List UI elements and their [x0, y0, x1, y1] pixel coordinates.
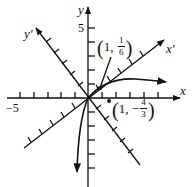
- tick-label-neg5: −5: [6, 102, 19, 114]
- x-prime-label: x': [166, 42, 175, 55]
- focus-point: [107, 99, 111, 103]
- x-axis-label: x: [180, 84, 186, 97]
- x-prime-ticks: [28, 51, 143, 142]
- point-label-2: (1, −43): [112, 98, 155, 119]
- diagram-canvas: x y x' y' −5 5 (1, 16) (1, −43): [0, 0, 192, 187]
- point-label-1: (1, 16): [97, 36, 132, 57]
- vertex-point: [98, 86, 102, 90]
- tick-label-5: 5: [78, 22, 84, 34]
- y-prime-label: y': [24, 27, 33, 40]
- conic-curve-lower: [77, 98, 88, 172]
- y-axis-label: y: [78, 3, 84, 16]
